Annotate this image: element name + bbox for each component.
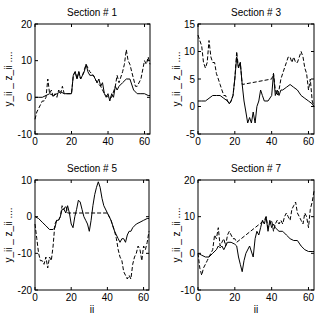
y-tick-label: -10 — [18, 129, 33, 140]
subplot-section-1: Section # 1 y_ii _ z_ii .... 0204060-100… — [3, 7, 151, 147]
y-tick-label: 0 — [26, 92, 32, 103]
y-tick-label: -20 — [18, 285, 33, 296]
x-tick-label: 20 — [229, 136, 241, 147]
axes-box — [35, 24, 150, 134]
figure: Section # 1 y_ii _ z_ii .... 0204060-100… — [0, 0, 319, 316]
y-tick-label: 5 — [189, 74, 195, 85]
y-axis-label: y_ii _ z_ii .... — [171, 51, 182, 106]
x-tick-label: 20 — [66, 136, 78, 147]
x-tick-label: 40 — [102, 292, 114, 303]
x-axis-label: ii — [254, 304, 258, 315]
x-tick-label: 60 — [138, 292, 150, 303]
x-tick-label: 0 — [195, 136, 201, 147]
y-tick-label: 10 — [184, 46, 196, 57]
y-tick-label: 10 — [21, 55, 33, 66]
subplot-section-3: Section # 3 y_ii _ z_ii .... 0204060-505… — [171, 7, 314, 147]
plot-title: Section # 5 — [67, 163, 117, 174]
x-tick-label: 40 — [266, 136, 278, 147]
y-tick-label: 0 — [189, 248, 195, 259]
plot-title: Section # 7 — [231, 163, 281, 174]
x-tick-label: 20 — [66, 292, 78, 303]
y-tick-label: 10 — [21, 175, 33, 186]
y-axis-label: y_ii _ z_ii .... — [171, 207, 182, 262]
y-tick-label: 10 — [184, 211, 196, 222]
x-axis-label: ii — [90, 304, 94, 315]
series-line-y-ii — [198, 217, 314, 272]
x-tick-label: 60 — [139, 136, 151, 147]
y-tick-label: 15 — [184, 19, 196, 30]
y-tick-label: 20 — [21, 19, 33, 30]
x-tick-label: 0 — [32, 292, 38, 303]
x-tick-label: 0 — [195, 292, 201, 303]
plot-title: Section # 3 — [231, 7, 281, 18]
x-tick-label: 20 — [229, 292, 241, 303]
y-tick-label: -5 — [186, 129, 195, 140]
y-axis-label: y_ii _ z_ii .... — [3, 51, 14, 106]
x-tick-label: 40 — [266, 292, 278, 303]
x-tick-label: 40 — [102, 136, 114, 147]
series-line-y-ii — [35, 182, 149, 243]
subplot-section-7: Section # 7 y_ii _ z_ii .... ii 0204060-… — [171, 163, 314, 315]
y-axis-label: y_ii _ z_ii .... — [3, 207, 14, 262]
x-tick-label: 0 — [32, 136, 38, 147]
y-tick-label: 0 — [26, 211, 32, 222]
series-line-z-ii — [35, 50, 150, 120]
plot-title: Section # 1 — [67, 7, 117, 18]
y-tick-label: 20 — [184, 175, 196, 186]
x-tick-label: 60 — [303, 292, 315, 303]
y-tick-label: -10 — [18, 248, 33, 259]
x-tick-label: 60 — [303, 136, 315, 147]
series-line-y-ii — [35, 64, 150, 101]
y-tick-label: 0 — [189, 101, 195, 112]
y-tick-label: -10 — [181, 285, 196, 296]
subplot-section-5: Section # 5 y_ii _ z_ii .... ii 0204060-… — [3, 163, 150, 315]
